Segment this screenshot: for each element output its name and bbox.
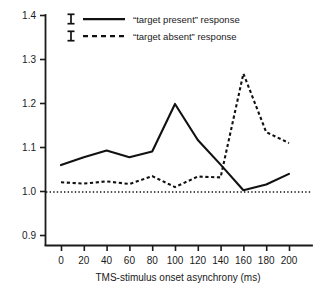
x-tick-label: 60: [124, 255, 136, 266]
line-chart: 1.4 1.3 1.2 1.1 1.0 0.9 0204060801001201…: [0, 0, 322, 298]
x-axis-title: TMS-stimulus onset asynchrony (ms): [95, 272, 260, 283]
chart-figure: 1.4 1.3 1.2 1.1 1.0 0.9 0204060801001201…: [0, 0, 322, 298]
x-tick-label: 180: [258, 255, 275, 266]
y-tick-label: 1.4: [22, 10, 36, 21]
y-tick-label: 1.1: [22, 142, 36, 153]
legend-label-target-present: “target present” response: [133, 14, 240, 25]
x-tick-label: 100: [167, 255, 184, 266]
x-tick-label: 80: [147, 255, 159, 266]
legend-label-target-absent: “target absent” response: [133, 31, 237, 42]
y-tick-label: 0.9: [22, 230, 36, 241]
x-tick-label: 20: [78, 255, 90, 266]
y-tick-label: 1.0: [22, 186, 36, 197]
y-tick-label: 1.2: [22, 98, 36, 109]
x-tick-label: 200: [281, 255, 298, 266]
x-tick-label: 120: [189, 255, 206, 266]
x-tick-label: 0: [58, 255, 64, 266]
x-tick-label: 140: [212, 255, 229, 266]
y-tick-label: 1.3: [22, 54, 36, 65]
chart-background: [0, 0, 322, 298]
x-tick-label: 40: [101, 255, 113, 266]
x-tick-label: 160: [235, 255, 252, 266]
